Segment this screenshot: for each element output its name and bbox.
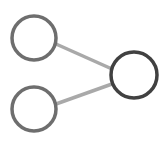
edge-bottom-to-output	[56, 84, 112, 104]
node-input-top	[12, 16, 56, 60]
node-output	[111, 52, 157, 98]
edge-top-to-output	[56, 44, 112, 69]
node-input-bottom	[12, 87, 56, 131]
node-diagram	[0, 0, 168, 143]
